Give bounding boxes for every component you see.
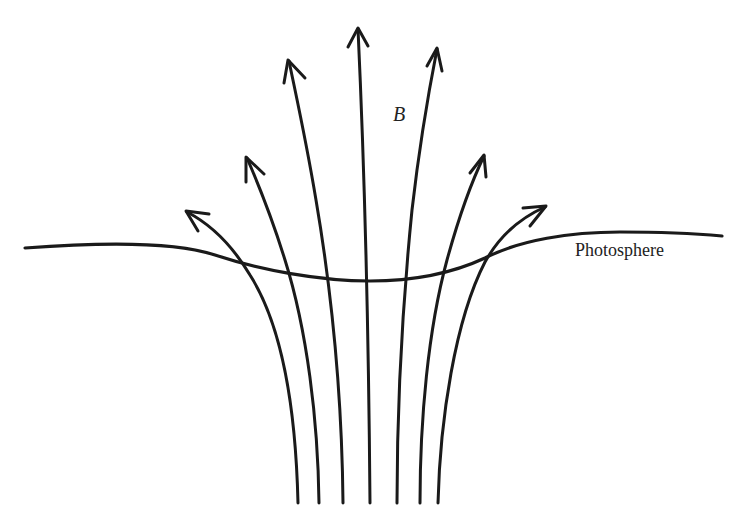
magnetic-field-label: B [393,103,405,126]
field-line-far-left [187,212,298,503]
field-line-left-2 [247,158,319,503]
field-line-far-right [438,207,545,503]
photosphere-label: Photosphere [575,240,664,261]
field-lines [186,28,546,503]
field-line-right-2 [420,156,484,503]
field-line-center [358,29,370,503]
arrowhead-far-left-icon [186,211,209,231]
arrowhead-left-3-icon [284,60,305,83]
